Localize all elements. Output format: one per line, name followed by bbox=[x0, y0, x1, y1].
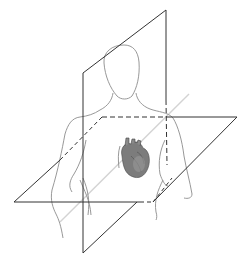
right-lower-torso-outline bbox=[155, 180, 163, 220]
transverse-left-edge-solid bbox=[14, 160, 60, 202]
arm-hint-left bbox=[118, 146, 120, 168]
right-torso-outline bbox=[159, 140, 168, 186]
heart-highlight bbox=[133, 156, 145, 172]
anatomical-planes-diagram bbox=[0, 0, 249, 264]
sagittal-top-edge bbox=[83, 10, 166, 73]
transverse-right-edge bbox=[153, 117, 237, 202]
left-shoulder-outline bbox=[51, 93, 113, 238]
heart bbox=[122, 138, 150, 178]
diagram-svg bbox=[0, 0, 249, 264]
sagittal-plane bbox=[83, 10, 167, 253]
transverse-left-edge-dashed bbox=[60, 117, 102, 160]
sagittal-bottom-edge bbox=[83, 202, 137, 253]
sagittal-right-edge-dashed bbox=[166, 100, 167, 165]
